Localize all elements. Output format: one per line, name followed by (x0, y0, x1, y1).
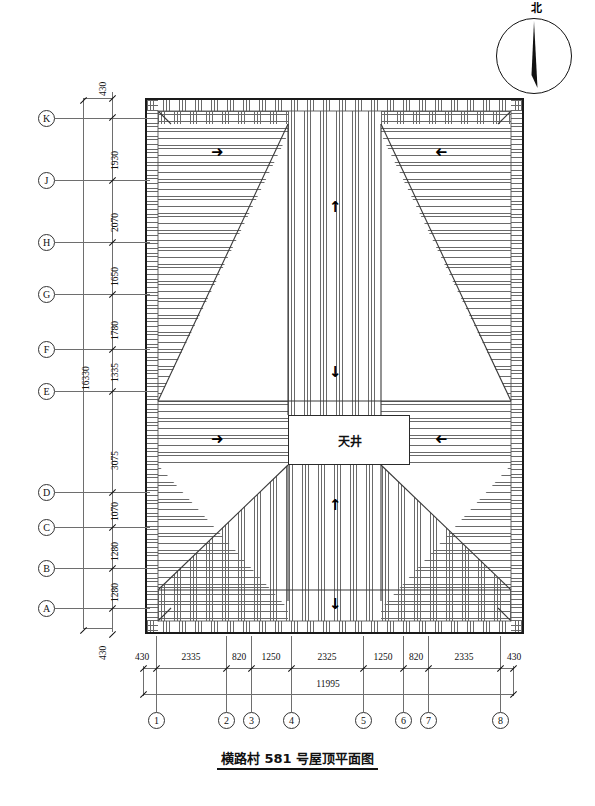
dim-h-430-left: 430 (122, 652, 162, 662)
grid-line-2 (226, 636, 227, 712)
grid-line-H (55, 242, 150, 243)
grid-bubble-C[interactable]: C (38, 519, 55, 536)
arrow-up-upper: ↑ (329, 200, 342, 215)
arrow-left-middle-right: ➜ (435, 432, 448, 447)
grid-line-E (55, 391, 150, 392)
dim-v-seg-1280-b: 1280 (110, 583, 120, 602)
dim-v-430-top: 430 (98, 82, 108, 96)
dim-tick-bottom-430 (83, 628, 112, 629)
compass-needle-icon (496, 18, 572, 94)
grid-line-B (55, 568, 150, 569)
grid-line-A (55, 608, 150, 609)
drawing-sheet: 北 (0, 0, 595, 806)
dim-v-430-bottom: 430 (98, 646, 108, 660)
grid-bubble-3[interactable]: 3 (243, 712, 260, 729)
grid-bubble-8[interactable]: 8 (492, 712, 509, 729)
dim-line-overall-v (83, 98, 84, 628)
dim-h-seg-2325: 2325 (297, 652, 357, 662)
courtyard-skylight: 天井 (288, 415, 410, 465)
dim-h-overall-11995: 11995 (298, 679, 358, 689)
grid-bubble-5[interactable]: 5 (355, 712, 372, 729)
grid-bubble-G[interactable]: G (38, 286, 55, 303)
grid-line-4 (291, 636, 292, 712)
roof-plan-drawing: 天井 ➜ ➜ ↑ ↓ ➜ ➜ ↑ ↓ (145, 98, 524, 634)
courtyard-label: 天井 (289, 432, 411, 449)
grid-line-5 (363, 636, 364, 712)
drawing-title-text: 横路村 581 号屋顶平面图 (217, 751, 378, 770)
grid-line-K (55, 118, 150, 119)
dim-v-seg-3075: 3075 (110, 451, 120, 470)
grid-bubble-1[interactable]: 1 (148, 712, 165, 729)
arrow-right-upper-left: ➜ (211, 145, 224, 160)
grid-bubble-K[interactable]: K (38, 110, 55, 127)
grid-bubble-J[interactable]: J (38, 172, 55, 189)
dim-v-overall-16330: 16330 (81, 366, 91, 390)
grid-line-G (55, 294, 150, 295)
dim-chain-segments-h (143, 668, 513, 669)
grid-line-6 (403, 636, 404, 712)
dim-v-seg-2070: 2070 (110, 213, 120, 232)
grid-bubble-B[interactable]: B (38, 560, 55, 577)
arrow-down-bottom: ↓ (329, 597, 342, 612)
grid-line-7 (428, 636, 429, 712)
grid-bubble-7[interactable]: 7 (420, 712, 437, 729)
dim-h-seg-2335-b: 2335 (434, 652, 494, 662)
dim-chain-overall-h (143, 694, 513, 695)
grid-line-F (55, 349, 150, 350)
roof-plan-inner: 天井 ➜ ➜ ↑ ↓ ➜ ➜ ↑ ↓ (147, 100, 522, 632)
dim-v-seg-1070: 1070 (110, 502, 120, 521)
grid-bubble-E[interactable]: E (38, 383, 55, 400)
dim-tick-top-430 (83, 98, 112, 99)
dim-v-seg-1780: 1780 (110, 321, 120, 340)
dim-h-430-right: 430 (494, 652, 534, 662)
drawing-title: 横路村 581 号屋顶平面图 (0, 748, 595, 767)
dim-v-seg-1930: 1930 (110, 151, 120, 170)
compass-north-label: 北 (526, 2, 546, 15)
arrow-down-middle: ↓ (329, 365, 342, 380)
grid-bubble-H[interactable]: H (38, 234, 55, 251)
grid-bubble-4[interactable]: 4 (283, 712, 300, 729)
grid-bubble-6[interactable]: 6 (395, 712, 412, 729)
grid-line-1 (156, 636, 157, 712)
arrow-right-middle-left: ➜ (211, 432, 224, 447)
dim-v-seg-1335: 1335 (110, 363, 120, 382)
grid-bubble-A[interactable]: A (38, 600, 55, 617)
dim-h-seg-1250-a: 1250 (241, 652, 301, 662)
grid-line-J (55, 180, 150, 181)
grid-bubble-F[interactable]: F (38, 341, 55, 358)
compass-rose: 北 (496, 18, 574, 96)
arrow-up-lower: ↑ (329, 498, 342, 513)
grid-line-8 (500, 636, 501, 712)
grid-bubble-2[interactable]: 2 (218, 712, 235, 729)
grid-line-D (55, 492, 150, 493)
grid-line-C (55, 527, 150, 528)
grid-line-3 (251, 636, 252, 712)
dim-v-seg-1280-a: 1280 (110, 542, 120, 561)
grid-bubble-D[interactable]: D (38, 484, 55, 501)
dim-v-seg-1650: 1650 (110, 267, 120, 286)
arrow-left-upper-right: ➜ (435, 145, 448, 160)
